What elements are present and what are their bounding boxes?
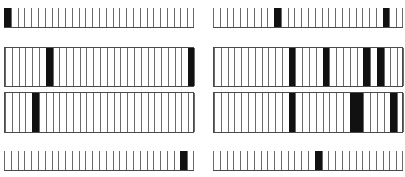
empty-cell (396, 151, 403, 170)
strip-row2-right (213, 47, 403, 87)
empty-cell (396, 8, 403, 27)
strip-row4-left (4, 151, 194, 171)
empty-cell (187, 8, 194, 27)
empty-cell (397, 48, 404, 86)
strip-row3-left (4, 92, 194, 133)
filled-cell (188, 48, 195, 86)
empty-cell (188, 93, 195, 132)
strip-row2-left (4, 47, 194, 87)
empty-cell (397, 93, 404, 132)
strip-row1-right (213, 8, 403, 28)
strip-row1-left (4, 8, 194, 28)
strip-row4-right (213, 151, 403, 171)
empty-cell (187, 151, 194, 170)
strip-row3-right (213, 92, 403, 133)
